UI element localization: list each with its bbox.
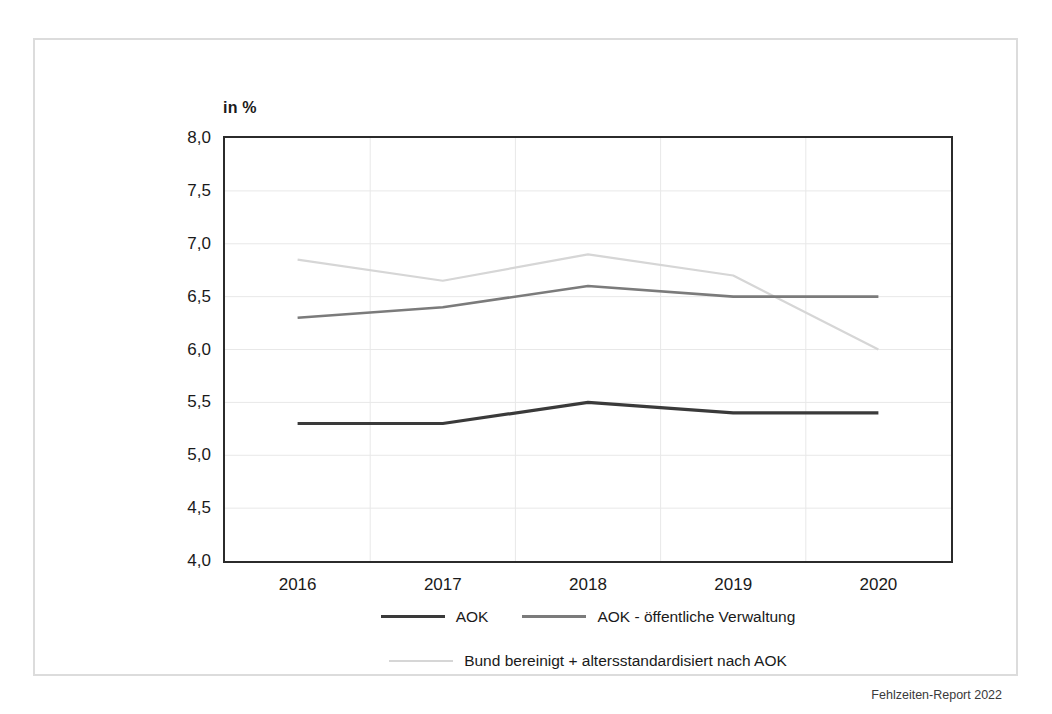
source-note: Fehlzeiten-Report 2022 [35, 688, 1020, 702]
axis-unit-label: in % [223, 99, 257, 117]
y-axis-tick-label: 6,5 [151, 287, 211, 307]
x-axis-tick-label: 2016 [225, 575, 371, 595]
legend-item-verwaltung[interactable]: AOK - öffentliche Verwaltung [522, 609, 795, 625]
legend-row-primary: AOK AOK - öffentliche Verwaltung [223, 609, 953, 625]
y-axis-tick-label: 7,5 [151, 181, 211, 201]
y-axis-tick-label: 8,0 [151, 128, 211, 148]
y-axis-tick-label: 6,0 [151, 340, 211, 360]
legend-label-verwaltung: AOK - öffentliche Verwaltung [597, 609, 795, 625]
series-lines-group [298, 254, 879, 423]
legend-row-secondary: Bund bereinigt + altersstandardisiert na… [223, 653, 953, 669]
series-line [298, 254, 879, 349]
figure-container: in % 8,07,57,06,56,05,55,04,54,0 2016201… [0, 0, 1052, 714]
legend-swatch-aok [381, 615, 445, 618]
legend-item-aok[interactable]: AOK [381, 609, 489, 625]
legend-item-bund[interactable]: Bund bereinigt + altersstandardisiert na… [389, 653, 787, 669]
x-axis-tick-label: 2020 [805, 575, 951, 595]
x-axis-tick-label: 2018 [515, 575, 661, 595]
y-axis-tick-label: 5,5 [151, 392, 211, 412]
series-line [298, 402, 879, 423]
legend-label-aok: AOK [456, 609, 489, 625]
chart-svg [225, 138, 951, 561]
gridlines-group [225, 138, 951, 561]
y-axis-tick-label: 4,5 [151, 498, 211, 518]
y-axis-tick-label: 7,0 [151, 234, 211, 254]
y-axis-tick-label: 4,0 [151, 551, 211, 571]
figure-frame: in % 8,07,57,06,56,05,55,04,54,0 2016201… [33, 38, 1018, 676]
x-axis-tick-label: 2019 [660, 575, 806, 595]
legend-label-bund: Bund bereinigt + altersstandardisiert na… [464, 653, 787, 669]
legend-swatch-verwaltung [522, 615, 586, 618]
series-line [298, 286, 879, 318]
x-axis-tick-label: 2017 [370, 575, 516, 595]
y-axis-tick-label: 5,0 [151, 445, 211, 465]
legend-swatch-bund [389, 660, 453, 662]
plot-area [223, 136, 953, 563]
